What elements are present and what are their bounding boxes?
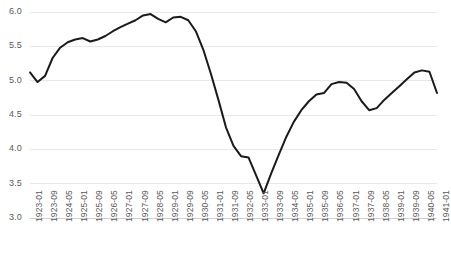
- gridlines: [30, 12, 437, 218]
- data-series-lines: [30, 14, 437, 193]
- series-line-0: [30, 14, 437, 193]
